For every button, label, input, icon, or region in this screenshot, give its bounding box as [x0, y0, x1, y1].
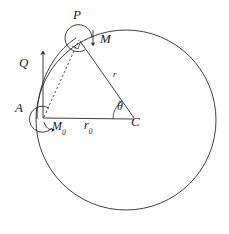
label-M0-base: M [52, 119, 62, 133]
label-M: M [100, 32, 111, 45]
chord-A-P-dashed [44, 40, 79, 117]
label-Q: Q [19, 56, 28, 69]
segment-P-C [80, 41, 134, 118]
label-theta: θ [117, 100, 123, 112]
figure-container: P M Q r A M0 r0 θ C [0, 0, 229, 234]
label-r0: r0 [84, 119, 92, 134]
label-C: C [131, 115, 140, 128]
angle-tick-at-P [72, 43, 80, 49]
label-r: r [113, 70, 117, 79]
label-P: P [73, 8, 81, 21]
label-r0-subscript: 0 [89, 127, 93, 136]
label-M0-subscript: 0 [62, 128, 66, 137]
label-r0-base: r [84, 118, 89, 132]
mechanics-diagram-svg [0, 0, 229, 234]
label-M0: M0 [52, 120, 66, 135]
label-A: A [15, 101, 23, 114]
